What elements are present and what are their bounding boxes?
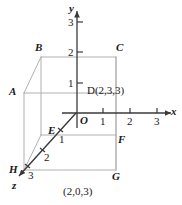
z-tick-label-2: 2 bbox=[44, 152, 50, 163]
cube-edge-A-B bbox=[24, 57, 41, 93]
z-tick-label-1: 1 bbox=[59, 134, 65, 145]
x-tick-label-2: 2 bbox=[127, 116, 133, 127]
y-tick-label-3: 3 bbox=[68, 17, 74, 28]
vertex-label-B: B bbox=[35, 42, 42, 53]
vertex-label-C: C bbox=[116, 42, 123, 53]
coordinate-cube-figure: A B C E F G H O x y z 1 2 3 1 2 3 1 2 3 … bbox=[0, 0, 182, 205]
vertex-label-E: E bbox=[48, 125, 55, 136]
point-d-coordinate-label: D(2,3,3) bbox=[87, 85, 124, 96]
x-tick-label-3: 3 bbox=[154, 116, 160, 127]
x-axis-label: x bbox=[171, 106, 177, 117]
z-tick-label-3: 3 bbox=[28, 170, 34, 181]
vertex-label-G: G bbox=[112, 171, 120, 182]
y-tick-label-1: 1 bbox=[68, 78, 74, 89]
origin-label-O: O bbox=[80, 115, 88, 126]
vertex-label-A: A bbox=[9, 86, 16, 97]
vertex-label-F: F bbox=[118, 134, 125, 145]
vertex-label-H: H bbox=[9, 164, 18, 175]
z-axis-label: z bbox=[12, 180, 16, 191]
x-tick-label-1: 1 bbox=[100, 116, 106, 127]
y-axis-label: y bbox=[69, 3, 74, 14]
point-g-coordinate-label: (2,0,3) bbox=[63, 186, 92, 197]
y-tick-label-2: 2 bbox=[68, 47, 74, 58]
